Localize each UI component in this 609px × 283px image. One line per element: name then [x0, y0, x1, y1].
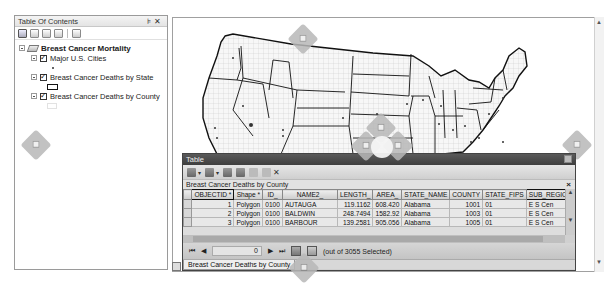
toc-window-controls[interactable]: ⊧✕	[147, 16, 164, 27]
grid-horizontal-scrollbar[interactable]	[183, 235, 565, 243]
row-selector[interactable]	[184, 218, 192, 227]
list-by-selection-button[interactable]	[54, 29, 63, 38]
selection-status: (out of 3055 Selected)	[323, 248, 392, 255]
collapse-icon[interactable]	[31, 93, 37, 99]
table-tab[interactable]: Breast Cancer Deaths by County	[183, 260, 295, 270]
table-options-icon[interactable]	[187, 168, 196, 177]
cell-objectid[interactable]: 3	[192, 218, 234, 227]
cell-name2[interactable]: AUTAUGA	[282, 200, 337, 209]
list-by-visibility-button[interactable]	[42, 29, 51, 38]
column-header[interactable]: LENGTH_	[338, 190, 373, 200]
table-window-title: Table	[186, 155, 204, 164]
layer-visibility-checkbox[interactable]	[40, 93, 47, 100]
layout-view-toggle-button[interactable]	[172, 262, 181, 271]
attribute-grid[interactable]: OBJECTID * Shape * ID_ NAME2_ LENGTH_ AR…	[183, 189, 575, 235]
zoom-to-selected-icon[interactable]	[262, 168, 271, 177]
cell-county[interactable]: 1003	[450, 209, 483, 218]
delete-selected-icon[interactable]: ✕	[273, 168, 280, 177]
show-all-records-button[interactable]	[291, 246, 301, 256]
map-vertical-scrollbar[interactable]: ▲ ▼	[594, 17, 604, 272]
table-close-button[interactable]	[564, 155, 572, 163]
table-layer-title: Breast Cancer Deaths by County	[186, 181, 288, 188]
data-frame-row[interactable]: Breast Cancer Mortality	[19, 43, 167, 53]
table-row[interactable]: 1 Polygon 0100 AUTAUGA 119.1162 608.420 …	[184, 200, 575, 209]
clear-selection-icon[interactable]	[249, 168, 258, 177]
dock-target-center-icon[interactable]	[371, 136, 393, 158]
cell-id[interactable]: 0100	[263, 218, 283, 227]
toc-title: Table Of Contents	[18, 17, 78, 26]
collapse-icon[interactable]	[31, 74, 37, 80]
cell-county[interactable]: 1005	[450, 218, 483, 227]
column-header[interactable]: ID_	[263, 190, 283, 200]
cell-name2[interactable]: BALDWIN	[282, 209, 337, 218]
collapse-icon[interactable]	[31, 55, 37, 61]
cell-state-name[interactable]: Alabama	[402, 200, 450, 209]
layer-label: Breast Cancer Deaths by State	[50, 73, 153, 82]
layer-visibility-checkbox[interactable]	[40, 74, 47, 81]
table-row[interactable]: 2 Polygon 0100 BALDWIN 248.7494 1582.92 …	[184, 209, 575, 218]
show-selected-records-button[interactable]	[307, 246, 317, 256]
cell-length[interactable]: 119.1162	[338, 200, 373, 209]
polygon-symbol-icon	[47, 84, 58, 90]
scrollbar-thumb[interactable]	[193, 236, 543, 242]
column-header[interactable]: COUNTY	[450, 190, 483, 200]
table-row[interactable]: 3 Polygon 0100 BARBOUR 139.2581 905.056 …	[184, 218, 575, 227]
list-by-source-button[interactable]	[30, 29, 39, 38]
scroll-down-icon[interactable]: ▼	[566, 217, 575, 223]
layer-label: Major U.S. Cities	[50, 54, 106, 63]
chevron-down-icon[interactable]: ▾	[216, 169, 219, 176]
column-header[interactable]: NAME2_	[282, 190, 337, 200]
cell-name2[interactable]: BARBOUR	[282, 218, 337, 227]
cell-state-name[interactable]: Alabama	[402, 218, 450, 227]
layer-row-county[interactable]: Breast Cancer Deaths by County	[19, 91, 167, 101]
cell-area[interactable]: 608.420	[373, 200, 402, 209]
previous-record-button[interactable]: ◀	[201, 247, 206, 255]
cell-county[interactable]: 1001	[450, 200, 483, 209]
toc-options-button[interactable]	[72, 29, 81, 38]
cell-id[interactable]: 0100	[263, 209, 283, 218]
column-header[interactable]: AREA_	[373, 190, 402, 200]
column-header[interactable]: OBJECTID *	[192, 190, 234, 200]
pin-icon[interactable]: ⊧	[147, 17, 154, 26]
cell-state-name[interactable]: Alabama	[402, 209, 450, 218]
scroll-up-icon[interactable]: ▲	[566, 189, 575, 195]
related-tables-icon[interactable]	[205, 168, 214, 177]
column-header[interactable]: STATE_FIPS	[483, 190, 527, 200]
cell-shape[interactable]: Polygon	[234, 200, 263, 209]
table-toolbar: ▾ ▾ ✕	[183, 165, 575, 179]
cell-shape[interactable]: Polygon	[234, 218, 263, 227]
cell-shape[interactable]: Polygon	[234, 209, 263, 218]
cell-state-fips[interactable]: 01	[483, 218, 527, 227]
select-by-attributes-icon[interactable]	[223, 168, 232, 177]
cell-objectid[interactable]: 2	[192, 209, 234, 218]
layer-visibility-checkbox[interactable]	[40, 55, 47, 62]
layer-row-state[interactable]: Breast Cancer Deaths by State	[19, 72, 167, 82]
scroll-up-icon[interactable]: ▲	[596, 19, 602, 25]
toolbar-separator	[67, 29, 68, 38]
close-icon[interactable]: ✕	[154, 17, 164, 26]
column-header[interactable]: STATE_NAME	[402, 190, 450, 200]
row-selector-header[interactable]	[184, 190, 192, 200]
next-record-button[interactable]: ▶	[268, 247, 273, 255]
collapse-icon[interactable]	[19, 45, 25, 51]
list-by-drawing-order-button[interactable]	[18, 29, 27, 38]
cell-objectid[interactable]: 1	[192, 200, 234, 209]
row-selector[interactable]	[184, 209, 192, 218]
row-selector[interactable]	[184, 200, 192, 209]
cell-length[interactable]: 248.7494	[338, 209, 373, 218]
cell-id[interactable]: 0100	[263, 200, 283, 209]
last-record-button[interactable]: ⏭	[279, 247, 285, 255]
cell-state-fips[interactable]: 01	[483, 209, 527, 218]
grid-vertical-scrollbar[interactable]: ▲ ▼	[565, 189, 575, 235]
switch-selection-icon[interactable]	[236, 168, 245, 177]
cell-area[interactable]: 905.056	[373, 218, 402, 227]
cell-area[interactable]: 1582.92	[373, 209, 402, 218]
chevron-down-icon[interactable]: ▾	[198, 169, 201, 176]
layer-row-cities[interactable]: Major U.S. Cities	[19, 53, 167, 63]
column-header[interactable]: Shape *	[234, 190, 263, 200]
first-record-button[interactable]: ⏮	[189, 247, 195, 255]
cell-length[interactable]: 139.2581	[338, 218, 373, 227]
current-record-input[interactable]: 0	[212, 246, 262, 256]
scroll-down-icon[interactable]: ▼	[596, 259, 602, 265]
cell-state-fips[interactable]: 01	[483, 200, 527, 209]
